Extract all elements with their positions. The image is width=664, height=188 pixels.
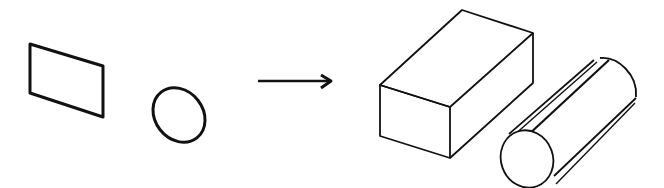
transform-arrow-icon bbox=[258, 75, 331, 88]
rectangle-2d-shape bbox=[30, 44, 103, 117]
diagram-svg bbox=[0, 0, 664, 188]
ellipse-2d-shape bbox=[142, 77, 216, 152]
cylinder-3d-shape bbox=[493, 58, 636, 188]
diagram-canvas bbox=[0, 0, 664, 188]
